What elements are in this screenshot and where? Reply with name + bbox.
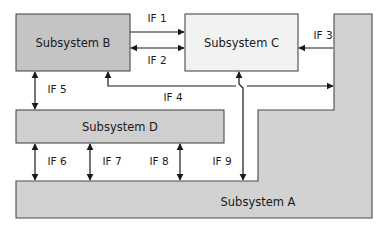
subsystem-a-label: Subsystem A <box>221 195 296 209</box>
if-4-connector-left <box>108 72 236 86</box>
if-5-label: IF 5 <box>47 83 66 95</box>
subsystem-b-label: Subsystem B <box>35 36 110 50</box>
subsystem-d-label: Subsystem D <box>82 120 158 134</box>
if-7-label: IF 7 <box>102 155 121 167</box>
subsystem-interface-diagram: Subsystem A Subsystem B Subsystem C Subs… <box>0 0 382 231</box>
subsystem-c-label: Subsystem C <box>204 36 279 50</box>
if-6-label: IF 6 <box>47 155 66 167</box>
if-8-label: IF 8 <box>149 155 168 167</box>
if-9-label: IF 9 <box>212 155 231 167</box>
diagram-canvas: Subsystem A Subsystem B Subsystem C Subs… <box>0 0 382 231</box>
if-1-label: IF 1 <box>147 12 166 24</box>
if-2-label: IF 2 <box>147 54 166 66</box>
if-3-label: IF 3 <box>313 29 332 41</box>
if-4-label: IF 4 <box>163 91 182 103</box>
if-9-connector-lower <box>239 80 243 180</box>
